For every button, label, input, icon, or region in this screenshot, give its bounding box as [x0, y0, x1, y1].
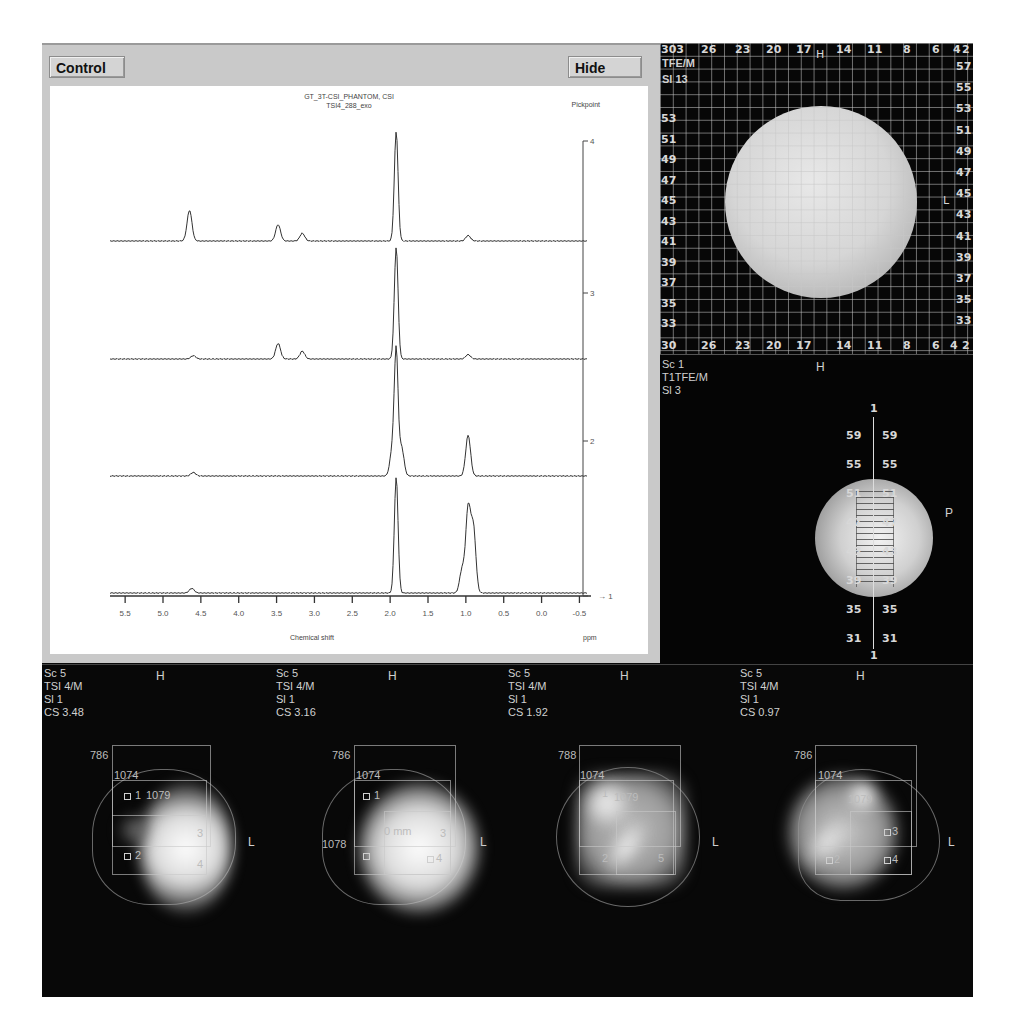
voxel-marker[interactable] — [427, 856, 434, 863]
x-tick-label: 4.0 — [233, 609, 245, 618]
grid-col-label: 6 — [932, 44, 940, 56]
ruler-label: 55 — [882, 459, 897, 471]
grid-row-label: 45 — [661, 195, 676, 207]
offset-tick-label: 3 — [590, 289, 595, 298]
ruler-label: 43 — [882, 546, 897, 558]
voxel-marker[interactable] — [363, 793, 370, 800]
roi-label: 1078 — [322, 838, 346, 850]
spectrum-chart: 5.55.04.54.03.53.02.52.01.51.00.50.0-0.5… — [50, 86, 648, 654]
grid-col-label: 4 — [953, 44, 961, 56]
orientation-h: H — [388, 669, 397, 683]
map-info-sequence: TSI 4/M — [276, 680, 315, 693]
grid-col-label: 23 — [735, 44, 750, 56]
grid-row-label: 33 — [661, 318, 676, 330]
spectrum-plot[interactable]: GT_3T-CSI_PHANTOM, CSI TSI4_288_exo Pick… — [50, 86, 648, 654]
map-info-chemical-shift: CS 3.16 — [276, 706, 316, 719]
csi-map-2[interactable]: Sc 5 TSI 4/M Sl 1 CS 3.16 H L 786 1074 1… — [274, 665, 506, 998]
grid-row-label: 43 — [661, 216, 676, 228]
grid-col-label: 6 — [932, 340, 940, 352]
voxel-marker[interactable] — [124, 793, 131, 800]
ruler-label: 43 — [846, 546, 861, 558]
ruler-label: 47 — [882, 517, 897, 529]
ruler-label: 51 — [846, 488, 861, 500]
grid-col-label: 14 — [836, 44, 851, 56]
grid-row-label: 55 — [956, 82, 971, 94]
control-button[interactable]: Control — [49, 56, 125, 78]
ruler-label: 39 — [882, 575, 897, 587]
voxel-marker[interactable] — [826, 857, 833, 864]
voxel-label: 5 — [658, 852, 664, 864]
spectrum-trace-2[interactable] — [110, 346, 587, 477]
csi-map-3[interactable]: Sc 5 TSI 4/M Sl 1 CS 1.92 H L 788 1074 1… — [506, 665, 738, 998]
orientation-l: L — [943, 195, 949, 207]
x-tick-label: 4.5 — [195, 609, 207, 618]
slab-ladder-overlay — [856, 491, 894, 587]
ruler-label: 39 — [846, 575, 861, 587]
map-info-series: Sc 5 — [508, 667, 530, 680]
grid-row-label: 47 — [956, 167, 971, 179]
grid-col-label: 11 — [867, 44, 882, 56]
sagittal-view[interactable]: Sc 1 T1TFE/M Sl 3 H P 1 1 59595555515147… — [660, 354, 973, 664]
csi-map-1[interactable]: Sc 5 TSI 4/M Sl 1 CS 3.48 H L 786 1074 1… — [42, 665, 274, 998]
voxel-marker[interactable] — [124, 853, 131, 860]
x-tick-label: 2.0 — [385, 609, 397, 618]
spectrum-trace-4[interactable] — [110, 132, 587, 241]
x-tick-label: 2.5 — [347, 609, 359, 618]
map-info-sequence: TSI 4/M — [44, 680, 83, 693]
map-info-sequence: TSI 4/M — [740, 680, 779, 693]
roi-label: 1074 — [580, 769, 604, 781]
grid-col-label: 17 — [796, 44, 811, 56]
x-tick-label: 3.5 — [271, 609, 283, 618]
voxel-label: 1 — [602, 787, 608, 799]
scale-label: 0 mm — [384, 825, 412, 837]
voi-box-sub — [384, 811, 451, 875]
grid-row-label: 49 — [661, 154, 676, 166]
roi-label: 1079 — [146, 789, 170, 801]
roi-label: 788 — [558, 749, 576, 761]
voxel-label: 4 — [197, 858, 203, 870]
grid-row-label: 41 — [956, 231, 971, 243]
planning-grid-view[interactable]: 3032623201714118642302623201714118642535… — [660, 43, 973, 354]
grid-col-label: 8 — [903, 44, 911, 56]
voxel-label: 3 — [892, 825, 898, 837]
voxel-label: 4 — [892, 853, 898, 865]
map-info-slice: Sl 1 — [44, 693, 63, 706]
roi-label: 1079 — [848, 793, 872, 805]
grid-info-slice: Sl 13 — [662, 73, 688, 86]
grid-col-label: 17 — [796, 340, 811, 352]
spectrum-trace-3[interactable] — [110, 248, 587, 360]
roi-label: 1079 — [614, 791, 638, 803]
voxel-marker[interactable] — [363, 853, 370, 860]
csi-map-4[interactable]: Sc 5 TSI 4/M Sl 1 CS 0.97 H L 786 1074 1… — [738, 665, 970, 998]
slice-ruler[interactable] — [873, 417, 874, 649]
grid-col-label: 23 — [735, 340, 750, 352]
grid-col-label: 303 — [661, 44, 684, 56]
offset-tick-label: 4 — [590, 137, 595, 146]
voxel-marker[interactable] — [884, 829, 891, 836]
voi-box-sub — [616, 811, 676, 875]
grid-col-label: 30 — [661, 340, 676, 352]
grid-row-label: 41 — [661, 236, 676, 248]
x-tick-label: 0.0 — [536, 609, 548, 618]
grid-col-label: 20 — [766, 44, 781, 56]
voxel-label: 3 — [440, 827, 446, 839]
ruler-label: 35 — [882, 604, 897, 616]
map-info-slice: Sl 1 — [740, 693, 759, 706]
orientation-h: H — [156, 669, 165, 683]
grid-col-label: 2 — [962, 340, 970, 352]
csi-grid-overlay — [660, 43, 973, 354]
spectrum-trace-1[interactable] — [110, 478, 587, 594]
grid-row-label: 49 — [956, 146, 971, 158]
grid-col-label: 11 — [867, 340, 882, 352]
map-info-slice: Sl 1 — [508, 693, 527, 706]
roi-label: 786 — [794, 749, 812, 761]
voxel-label: 4 — [436, 852, 442, 864]
sag-info-series: Sc 1 — [662, 358, 684, 371]
voxel-marker[interactable] — [884, 857, 891, 864]
roi-label: 1074 — [114, 769, 138, 781]
voi-box-sub — [850, 811, 912, 875]
ruler-label: 59 — [846, 430, 861, 442]
ruler-label: 31 — [846, 633, 861, 645]
ruler-label: 31 — [882, 633, 897, 645]
hide-button[interactable]: Hide — [568, 56, 642, 78]
